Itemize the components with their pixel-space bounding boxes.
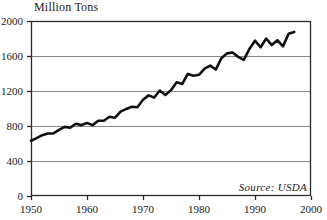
y-axis-tick-label: 2000 bbox=[0, 16, 23, 27]
data-series-line bbox=[31, 32, 294, 141]
plot-frame bbox=[32, 22, 311, 196]
x-axis-tick-label: 1990 bbox=[235, 204, 275, 215]
y-axis-tick-label: 800 bbox=[0, 121, 23, 132]
x-axis-tick-label: 2000 bbox=[291, 204, 327, 215]
x-axis-tick-label: 1970 bbox=[123, 204, 163, 215]
x-axis-tick-label: 1960 bbox=[67, 204, 107, 215]
y-axis-tick-label: 1600 bbox=[0, 51, 23, 62]
x-axis-tick-label: 1950 bbox=[11, 204, 51, 215]
y-axis-tick-label: 400 bbox=[0, 156, 23, 167]
source-annotation: Source: USDA bbox=[239, 182, 307, 193]
chart-container: Million Tons 0400800120016002000 1950196… bbox=[0, 0, 327, 220]
y-axis-tick-label: 0 bbox=[0, 191, 23, 202]
x-axis-tick-label: 1980 bbox=[179, 204, 219, 215]
y-axis-tick-label: 1200 bbox=[0, 86, 23, 97]
